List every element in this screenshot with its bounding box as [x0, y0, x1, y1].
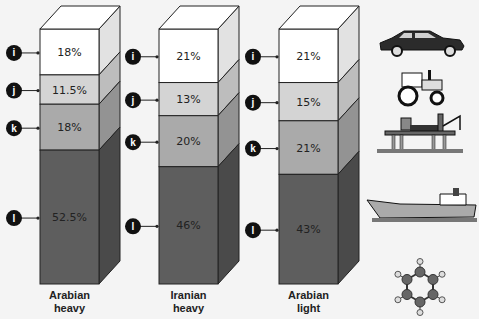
value-label: 52.5%: [52, 211, 87, 224]
value-label: 13%: [176, 93, 200, 106]
value-label: 11.5%: [52, 84, 87, 97]
value-label: 18%: [57, 121, 81, 134]
benzene-molecule-icon: [395, 259, 445, 316]
value-label: 20%: [176, 135, 200, 148]
category-label: heavy: [54, 302, 86, 314]
svg-text:k: k: [11, 123, 17, 134]
svg-text:j: j: [131, 95, 135, 106]
category-label: Arabian: [288, 289, 329, 301]
value-label: 21%: [176, 50, 200, 63]
svg-text:l: l: [13, 213, 16, 224]
tanker-ship-icon: [367, 188, 477, 222]
value-label: 18%: [57, 46, 81, 59]
stacked-column-chart: 18%i11.5%j18%k52.5%lArabianheavy21%i13%j…: [0, 0, 479, 319]
category-label: light: [297, 302, 321, 314]
value-label: 21%: [296, 142, 320, 155]
oil-platform-icon: [377, 114, 463, 153]
column-iranian-heavy: 21%i13%j20%k46%lIranianheavy: [125, 6, 239, 314]
category-label: Arabian: [49, 289, 90, 301]
svg-text:k: k: [130, 137, 136, 148]
value-label: 21%: [296, 50, 320, 63]
svg-text:k: k: [250, 143, 256, 154]
svg-text:j: j: [12, 85, 16, 96]
car-icon: [380, 31, 464, 56]
svg-text:i: i: [252, 51, 255, 62]
category-label: heavy: [173, 302, 205, 314]
category-label: Iranian: [170, 289, 206, 301]
value-label: 46%: [176, 219, 200, 232]
column-arabian-light: 21%i15%j21%k43%lArabianlight: [245, 6, 359, 314]
value-label: 43%: [296, 223, 320, 236]
tractor-icon: [399, 70, 443, 105]
value-label: 15%: [296, 96, 320, 109]
svg-text:j: j: [251, 97, 255, 108]
column-arabian-heavy: 18%i11.5%j18%k52.5%lArabianheavy: [6, 6, 120, 314]
svg-text:l: l: [132, 221, 135, 232]
svg-text:l: l: [252, 225, 255, 236]
usage-icons: [367, 31, 477, 316]
svg-text:i: i: [13, 47, 16, 58]
svg-text:i: i: [132, 51, 135, 62]
segment-l: 52.5%l: [6, 127, 120, 284]
